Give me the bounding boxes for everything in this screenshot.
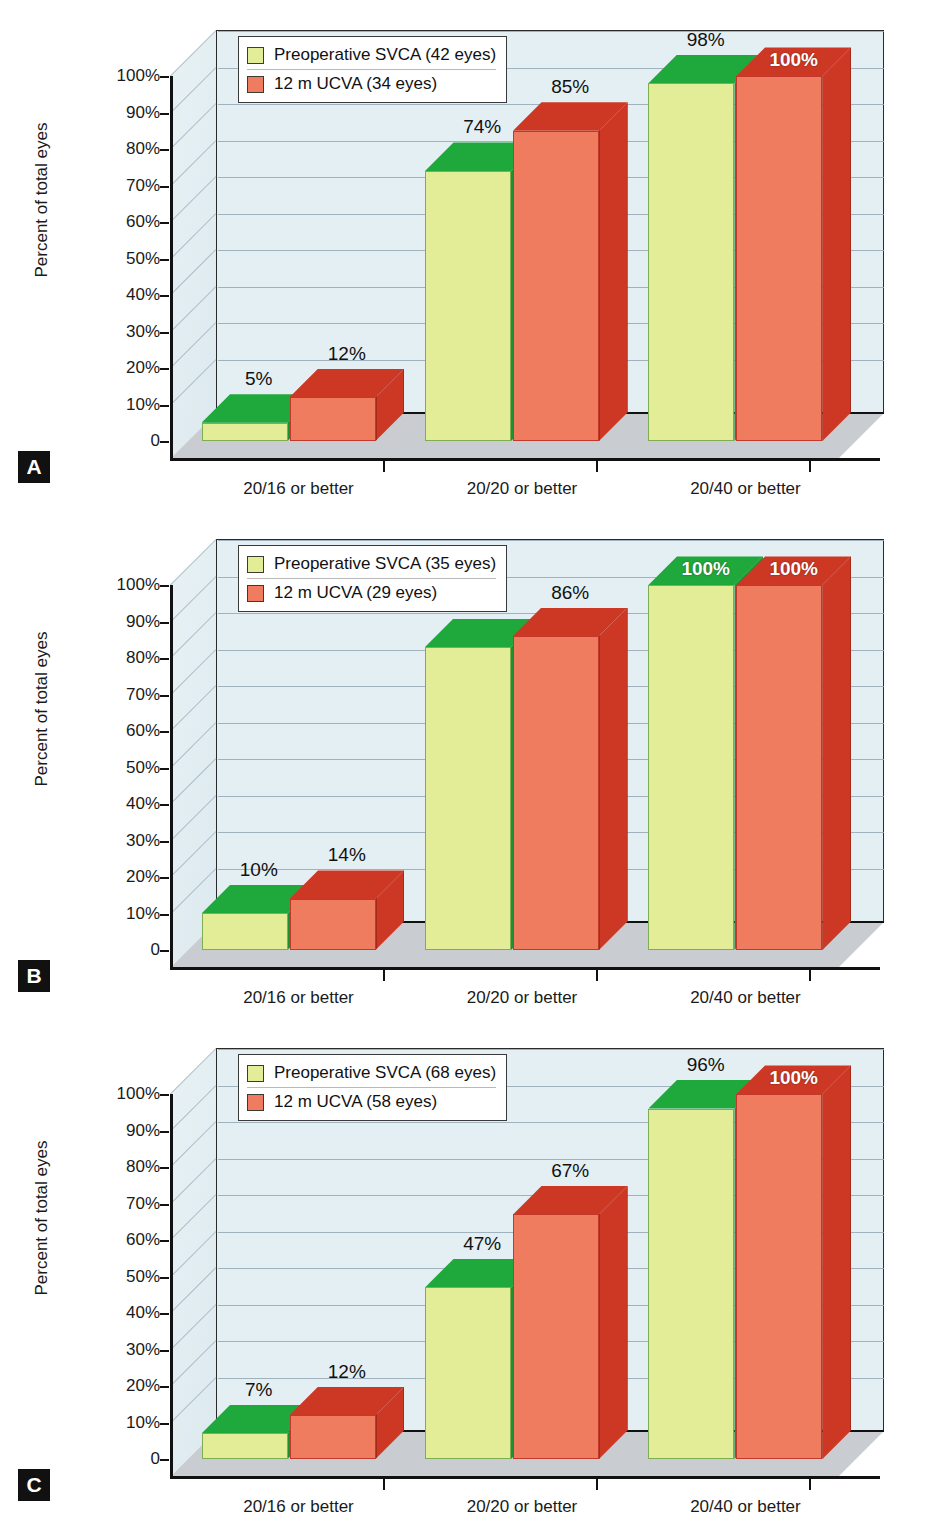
bar-green-value-label-0: 7% (245, 1379, 272, 1401)
x-axis-tick-mark (383, 968, 385, 981)
bar-red-value-label-2: 100% (769, 1067, 818, 1089)
bar-green-value-label-0: 5% (245, 368, 272, 390)
y-axis-tick-label: 30% (90, 322, 160, 342)
y-axis-ticks: 100%90%80%70%60%50%40%30%20%10%0 (82, 1018, 160, 1527)
y-axis-tick-label: 90% (90, 103, 160, 123)
bar-red-2 (736, 1065, 822, 1459)
y-axis-tick-label: 100% (90, 575, 160, 595)
x-axis-tick-mark (596, 1477, 598, 1490)
tick-mark (160, 368, 169, 370)
bar-red-1 (513, 1186, 599, 1459)
y-axis-tick-label: 80% (90, 139, 160, 159)
x-axis-tick-label-0: 20/16 or better (243, 988, 354, 1008)
legend-item-label: 12 m UCVA (58 eyes) (274, 1092, 437, 1112)
legend-item-1: 12 m UCVA (58 eyes) (247, 1087, 496, 1116)
bar-green-2 (648, 556, 734, 950)
x-axis-tick-mark (809, 459, 811, 472)
x-axis-tick-label-1: 20/20 or better (467, 479, 578, 499)
tick-mark (160, 950, 169, 952)
bar-green-front-face (425, 647, 511, 950)
bar-red-2 (736, 47, 822, 441)
y-axis-tick-label: 0 (90, 1449, 160, 1469)
x-axis-tick-mark (596, 459, 598, 472)
bar-green-value-label-2: 96% (687, 1054, 725, 1076)
x-axis-tick-label-1: 20/20 or better (467, 1497, 578, 1517)
bar-red-value-label-1: 85% (551, 76, 589, 98)
bar-red-2 (736, 556, 822, 950)
bar-red-front-face (736, 76, 822, 441)
y-axis-tick-label: 90% (90, 1121, 160, 1141)
bar-red-1 (513, 102, 599, 441)
y-axis-tick-text: 90% (126, 1121, 160, 1140)
tick-mark (160, 113, 169, 115)
tick-mark (160, 658, 169, 660)
tick-mark (160, 1386, 169, 1388)
y-axis-tick-text: 0 (151, 940, 160, 959)
bar-red-0 (290, 870, 376, 950)
y-axis-tick-text: 10% (126, 904, 160, 923)
x-axis-tick-label-1: 20/20 or better (467, 988, 578, 1008)
legend-item-0: Preoperative SVCA (42 eyes) (247, 41, 496, 69)
legend-item-1: 12 m UCVA (34 eyes) (247, 69, 496, 98)
bar-green-value-label-1: 47% (463, 1233, 501, 1255)
bar-green-0 (202, 885, 288, 950)
bar-red-side-face (822, 47, 851, 441)
y-axis-tick-label: 60% (90, 721, 160, 741)
bar-green-1 (425, 142, 511, 441)
chart-legend: Preoperative SVCA (42 eyes)12 m UCVA (34… (238, 36, 507, 103)
y-axis-tick-label: 20% (90, 867, 160, 887)
y-axis-line (170, 76, 173, 459)
y-axis-tick-text: 40% (126, 1303, 160, 1322)
bar-green-value-label-0: 10% (240, 859, 278, 881)
bar-green-front-face (648, 585, 734, 950)
bar-red-front-face (290, 397, 376, 441)
y-axis-tick-label: 60% (90, 212, 160, 232)
bar-red-value-label-0: 12% (328, 343, 366, 365)
bar-green-front-face (648, 83, 734, 441)
bar-green-front-face (202, 423, 288, 441)
tick-mark (160, 259, 169, 261)
chart-panel-c: CPercent of total eyes7%12%20/16 or bett… (0, 1018, 933, 1527)
gridline (218, 540, 884, 541)
y-axis-tick-label: 80% (90, 1157, 160, 1177)
y-axis-tick-label: 40% (90, 794, 160, 814)
y-axis-tick-label: 50% (90, 1267, 160, 1287)
y-axis-tick-text: 70% (126, 1194, 160, 1213)
gridline (218, 31, 884, 32)
y-axis-tick-text: 60% (126, 1230, 160, 1249)
y-axis-tick-text: 90% (126, 612, 160, 631)
x-axis-tick-mark (383, 1477, 385, 1490)
tick-mark (160, 1423, 169, 1425)
y-axis-tick-text: 50% (126, 1267, 160, 1286)
bar-green-front-face (202, 1433, 288, 1459)
gridline (218, 1049, 884, 1050)
y-axis-tick-text: 100% (117, 575, 160, 594)
legend-item-label: 12 m UCVA (34 eyes) (274, 74, 437, 94)
x-axis-tick-label-2: 20/40 or better (690, 479, 801, 499)
y-axis-tick-label: 90% (90, 612, 160, 632)
bar-green-value-label-1: 74% (463, 116, 501, 138)
y-axis-tick-text: 50% (126, 249, 160, 268)
y-axis-tick-label: 80% (90, 648, 160, 668)
bar-green-0 (202, 394, 288, 441)
bar-green-front-face (648, 1109, 734, 1459)
tick-mark (160, 804, 169, 806)
x-axis-tick-mark (809, 968, 811, 981)
legend-item-0: Preoperative SVCA (68 eyes) (247, 1059, 496, 1087)
x-axis-line (170, 967, 880, 970)
tick-mark (160, 186, 169, 188)
bar-red-value-label-0: 12% (328, 1361, 366, 1383)
legend-item-label: Preoperative SVCA (42 eyes) (274, 45, 496, 65)
bar-green-1 (425, 619, 511, 950)
bar-red-front-face (513, 1214, 599, 1459)
y-axis-tick-label: 20% (90, 358, 160, 378)
y-axis-tick-label: 70% (90, 685, 160, 705)
y-axis-tick-label: 40% (90, 285, 160, 305)
y-axis-tick-text: 40% (126, 794, 160, 813)
bar-red-value-label-1: 86% (551, 582, 589, 604)
y-axis-tick-label: 30% (90, 1340, 160, 1360)
tick-mark (160, 841, 169, 843)
bar-red-side-face (822, 1065, 851, 1459)
y-axis-tick-text: 90% (126, 103, 160, 122)
tick-mark (160, 1240, 169, 1242)
